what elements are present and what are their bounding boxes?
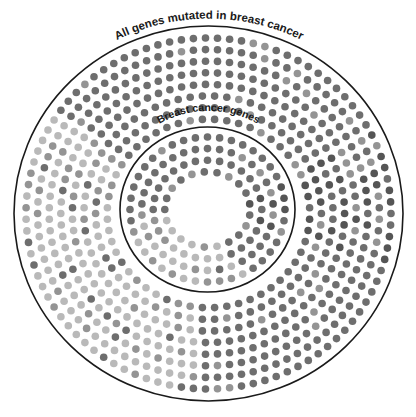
gene-dot: [288, 123, 296, 131]
gene-dot: [294, 363, 302, 371]
gene-dot: [23, 227, 31, 235]
gene-dot: [141, 297, 149, 305]
inner-label-text: Breast cancer genes: [155, 101, 263, 126]
gene-dot: [260, 92, 268, 100]
gene-dot: [284, 51, 292, 59]
gene-dot: [288, 297, 296, 305]
gene-dot: [353, 153, 361, 161]
gene-dot: [102, 326, 110, 334]
gene-dot: [80, 134, 88, 142]
gene-dot: [267, 136, 275, 144]
gene-dot: [261, 340, 269, 348]
gene-dot: [386, 233, 394, 241]
gene-dot: [102, 165, 110, 173]
gene-dot: [174, 96, 182, 104]
gene-dot: [238, 359, 246, 367]
gene-dot: [123, 313, 131, 321]
gene-dot: [363, 272, 371, 280]
gene-dot: [384, 175, 392, 183]
gene-dot: [318, 210, 326, 218]
gene-dot: [242, 222, 250, 230]
gene-dot: [154, 378, 162, 386]
gene-dot: [132, 74, 140, 82]
gene-dot: [145, 179, 153, 187]
gene-dot: [266, 163, 274, 171]
gene-dot: [281, 206, 289, 214]
gene-dot: [256, 169, 264, 177]
gene-dot: [75, 249, 83, 257]
gene-dot: [336, 244, 344, 252]
gene-dot: [122, 327, 130, 335]
gene-dot: [261, 365, 269, 373]
gene-dot: [363, 148, 371, 156]
gene-dot: [77, 118, 85, 126]
gene-dot: [248, 161, 256, 169]
gene-dot: [356, 308, 364, 316]
gene-dot: [110, 60, 118, 68]
gene-dot: [67, 112, 75, 120]
gene-dot: [152, 129, 160, 137]
gene-dot: [356, 111, 364, 119]
gene-dot: [118, 161, 126, 169]
gene-dot: [67, 307, 75, 315]
gene-dot: [48, 181, 56, 189]
gene-dot: [118, 259, 126, 267]
gene-dot: [292, 96, 300, 104]
gene-dot: [22, 204, 30, 212]
gene-dot: [175, 300, 183, 308]
gene-dot: [188, 171, 196, 179]
gene-dot: [279, 115, 287, 123]
gene-dot: [152, 316, 160, 324]
gene-dot: [199, 327, 207, 335]
gene-dot: [79, 160, 87, 168]
gene-dot: [370, 250, 378, 258]
gene-dot: [36, 187, 44, 195]
gene-dot: [223, 117, 231, 125]
gene-dot: [177, 235, 185, 243]
gene-dot: [143, 350, 151, 358]
gene-dot: [336, 176, 344, 184]
gene-dot: [328, 114, 336, 122]
gene-dot: [249, 356, 257, 364]
gene-dot: [158, 147, 166, 155]
gene-dot: [199, 304, 207, 312]
gene-dot: [155, 227, 163, 235]
gene-dot: [112, 248, 120, 256]
gene-dot: [57, 210, 65, 218]
gene-dot: [301, 238, 309, 246]
gene-dot: [214, 339, 222, 347]
gene-dot: [387, 210, 395, 218]
gene-dot: [112, 333, 120, 341]
gene-dot: [138, 211, 146, 219]
gene-dot: [339, 108, 347, 116]
gene-dot: [161, 236, 169, 244]
gene-dot: [163, 320, 171, 328]
gene-dot: [228, 137, 236, 145]
gene-dot: [258, 104, 266, 112]
gene-dot: [235, 231, 243, 239]
gene-dot: [338, 271, 346, 279]
gene-dot: [105, 193, 113, 201]
gene-dot: [213, 243, 221, 251]
gene-dot: [133, 276, 141, 284]
gene-dot: [312, 244, 320, 252]
gene-dot: [113, 289, 121, 297]
gene-dot: [267, 189, 275, 197]
gene-dot: [238, 382, 246, 390]
gene-dot: [280, 194, 288, 202]
gene-dot: [95, 304, 103, 312]
gene-dot: [127, 194, 135, 202]
gene-dot: [346, 170, 354, 178]
gene-dot: [90, 346, 98, 354]
gene-dot: [387, 198, 395, 206]
gene-dot: [64, 282, 72, 290]
gene-dot: [131, 370, 139, 378]
gene-dot: [214, 350, 222, 358]
gene-dot: [121, 353, 129, 361]
gene-dot: [65, 97, 73, 105]
gene-dot: [267, 222, 275, 230]
gene-dot: [326, 238, 334, 246]
gene-dot: [276, 143, 284, 151]
gene-dot: [376, 204, 384, 212]
gene-dot: [304, 193, 312, 201]
